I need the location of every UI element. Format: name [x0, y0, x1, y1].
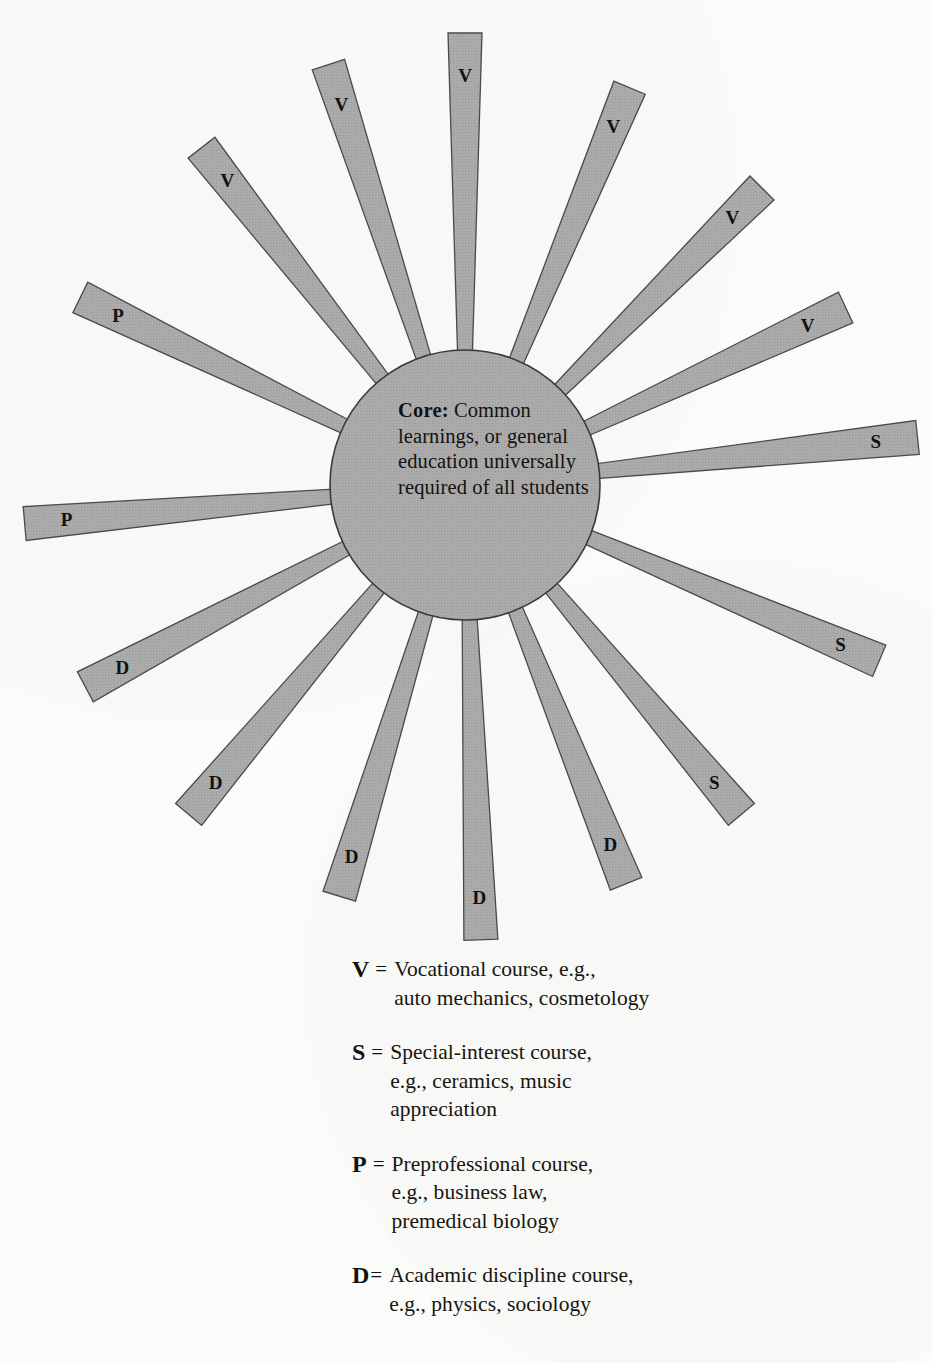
- ray-label-v-0: V: [458, 65, 472, 86]
- ray-label-p-12: P: [61, 509, 73, 530]
- legend-entry-d: D=Academic discipline course, e.g., phys…: [0, 1261, 932, 1318]
- legend-equals-d: =: [369, 1261, 389, 1290]
- core-circle: [330, 350, 600, 620]
- diagram-canvas: VVVVSSSDDDDDPPVV: [0, 0, 932, 960]
- legend-entry-p: P=Preprofessional course, e.g., business…: [0, 1150, 932, 1236]
- core-circle-group: [330, 350, 600, 620]
- ray-label-p-13: P: [112, 305, 124, 326]
- ray-s-6: [535, 571, 754, 825]
- ray-label-v-2: V: [725, 207, 739, 228]
- ray-label-v-3: V: [801, 315, 815, 336]
- legend-key-s: S: [352, 1038, 365, 1067]
- legend-description-p: Preprofessional course, e.g., business l…: [392, 1150, 594, 1236]
- ray-label-v-1: V: [607, 116, 621, 137]
- ray-d-7: [503, 592, 642, 890]
- radial-core-diagram: VVVVSSSDDDDDPPVV Core: Common learnings,…: [0, 0, 932, 960]
- ray-s-4: [582, 421, 920, 480]
- ray-label-d-10: D: [209, 772, 223, 793]
- ray-label-d-9: D: [345, 846, 359, 867]
- legend-entry-v: V=Vocational course, e.g., auto mechanic…: [0, 955, 932, 1012]
- ray-label-s-4: S: [870, 431, 881, 452]
- legend-equals-v: =: [369, 955, 394, 984]
- legend-key-p: P: [352, 1150, 367, 1179]
- ray-label-s-6: S: [709, 772, 720, 793]
- ray-label-d-7: D: [603, 834, 617, 855]
- ray-label-v-14: V: [220, 170, 234, 191]
- ray-label-d-8: D: [473, 887, 487, 908]
- legend-key-d: D: [352, 1261, 369, 1290]
- legend-description-d: Academic discipline course, e.g., physic…: [389, 1261, 633, 1318]
- ray-label-s-5: S: [835, 634, 846, 655]
- legend: V=Vocational course, e.g., auto mechanic…: [0, 955, 932, 1344]
- legend-key-v: V: [352, 955, 369, 984]
- legend-description-s: Special-interest course, e.g., ceramics,…: [390, 1038, 592, 1124]
- ray-label-d-11: D: [116, 657, 130, 678]
- legend-equals-p: =: [367, 1150, 392, 1179]
- ray-label-v-15: V: [335, 94, 349, 115]
- legend-description-v: Vocational course, e.g., auto mechanics,…: [394, 955, 649, 1012]
- legend-entry-s: S=Special-interest course, e.g., ceramic…: [0, 1038, 932, 1124]
- legend-equals-s: =: [365, 1038, 390, 1067]
